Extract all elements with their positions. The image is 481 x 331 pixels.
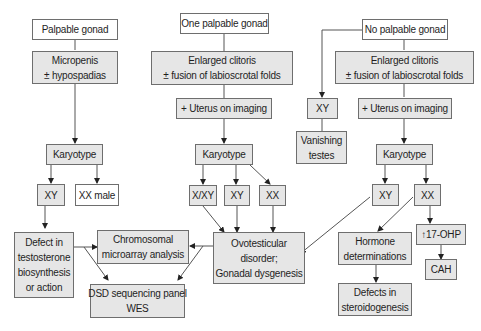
node-hormone-determinations: Hormone determinations [338, 232, 412, 265]
node-text: CAH [431, 262, 452, 277]
node-text: Enlarged clitoris [188, 53, 256, 68]
node-text: ± fusion of labioscrotal folds [163, 68, 280, 83]
node-text: testes [309, 148, 334, 163]
node-text: No palpable gonad [365, 22, 446, 37]
node-enlarged-clitoris-2: Enlarged clitoris ± fusion of labioscrot… [335, 51, 474, 84]
node-text: Ovotesticular [231, 236, 287, 251]
node-text: DSD sequencing panel [88, 286, 186, 301]
node-one-palpable-gonad: One palpable gonad [180, 13, 269, 34]
node-text: steroidogenesis [341, 300, 408, 315]
node-text: ± hypospadias [44, 68, 106, 83]
node-xy-2: XY [224, 185, 250, 206]
node-text: XY [231, 188, 244, 203]
node-text: One palpable gonad [181, 16, 267, 31]
node-karyotype-2: Karyotype [195, 144, 253, 165]
node-xy-1: XY [37, 184, 65, 206]
node-xx-male: XX male [75, 184, 119, 206]
node-cah: CAH [425, 259, 457, 280]
node-text: WES [126, 301, 148, 316]
node-xx-2: XX [259, 185, 286, 206]
node-17-ohp: ↑17-OHP [416, 224, 466, 245]
node-text: ± fusion of labioscrotal folds [346, 68, 463, 83]
node-text: ↑17-OHP [421, 227, 461, 242]
node-text: Enlarged clitoris [371, 53, 439, 68]
node-defect-testosterone: Defect in testosterone biosynthesis or a… [14, 232, 74, 298]
node-ovotesticular: Ovotesticular disorder; Gonadal dysgenes… [213, 232, 305, 284]
node-vanishing-testes: Vanishing testes [296, 131, 347, 164]
node-text: Micropenis [52, 53, 98, 68]
node-text: Defect in [25, 235, 63, 250]
node-text: XX [266, 188, 279, 203]
node-text: Hormone [355, 234, 395, 249]
node-text: Vanishing [301, 133, 342, 148]
node-chromosomal-microarray: Chromosomal microarray analysis [97, 230, 189, 264]
node-text: disorder; [240, 251, 277, 266]
node-text: Karyotype [53, 147, 96, 162]
node-text: Chromosomal [113, 232, 173, 247]
node-text: Gonadal dysgenesis [215, 266, 302, 281]
node-text: X/XY [192, 188, 214, 203]
node-text: XX male [79, 188, 115, 203]
node-text: XX [421, 188, 434, 203]
node-dsd-sequencing: DSD sequencing panel WES [90, 284, 185, 318]
node-enlarged-clitoris-1: Enlarged clitoris ± fusion of labioscrot… [151, 51, 293, 85]
node-text: XY [379, 188, 392, 203]
node-no-palpable-gonad: No palpable gonad [362, 19, 448, 40]
node-uterus-imaging-2: + Uterus on imaging [358, 98, 452, 119]
node-micropenis: Micropenis ± hypospadias [32, 51, 118, 84]
node-text: biosynthesis [18, 265, 71, 280]
node-text: testosterone [18, 250, 71, 265]
node-text: Defects in [354, 285, 396, 300]
node-text: XY [316, 101, 329, 116]
node-x-xy: X/XY [189, 185, 217, 206]
node-text: Palpable gonad [42, 22, 109, 37]
node-text: microarray analysis [102, 247, 184, 262]
node-text: XY [45, 188, 58, 203]
node-xy-vanishing: XY [307, 98, 338, 119]
node-xy-3: XY [372, 184, 399, 206]
node-defects-steroidogenesis: Defects in steroidogenesis [338, 283, 412, 316]
node-text: + Uterus on imaging [181, 101, 267, 116]
node-text: Karyotype [202, 147, 245, 162]
node-text: or action [26, 280, 63, 295]
node-palpable-gonad: Palpable gonad [32, 19, 118, 40]
node-karyotype-3: Karyotype [376, 144, 433, 165]
node-xx-3: XX [414, 184, 441, 206]
node-text: + Uterus on imaging [362, 101, 448, 116]
node-karyotype-1: Karyotype [46, 144, 103, 165]
node-uterus-imaging-1: + Uterus on imaging [176, 98, 272, 119]
node-text: determinations [344, 249, 407, 264]
node-text: Karyotype [383, 147, 426, 162]
